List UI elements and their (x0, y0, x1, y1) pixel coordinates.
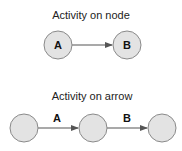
node-a-label: A (54, 39, 62, 51)
activity-on-node-title: Activity on node (52, 9, 130, 21)
edge-b-label: B (123, 112, 131, 124)
edge-a-label: A (53, 112, 61, 124)
node-a: A (44, 31, 72, 59)
event-node-2 (79, 114, 107, 142)
diagram-canvas: Activity on node A B Activity on arrow A… (0, 0, 182, 151)
activity-on-node-diagram: Activity on node A B (44, 9, 141, 59)
activity-on-arrow-title: Activity on arrow (52, 90, 133, 102)
node-b: B (113, 31, 141, 59)
activity-on-arrow-diagram: Activity on arrow A B (10, 90, 176, 142)
node-b-label: B (123, 39, 131, 51)
event-node-3 (148, 114, 176, 142)
event-node-1 (10, 114, 38, 142)
